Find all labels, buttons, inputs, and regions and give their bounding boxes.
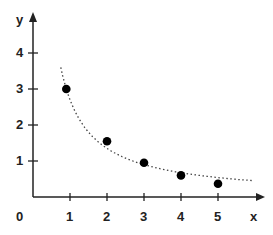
data-point — [62, 85, 71, 94]
chart-area: y x 0 12345 1234 — [0, 0, 273, 235]
axes — [28, 12, 265, 201]
data-point — [140, 159, 149, 168]
y-tick-label: 4 — [16, 45, 23, 60]
x-axis-label: x — [250, 209, 257, 224]
x-tick-label: 3 — [140, 209, 147, 224]
x-tick-label: 5 — [214, 209, 221, 224]
data-point — [177, 171, 186, 180]
origin-label: 0 — [16, 209, 23, 224]
x-tick-label: 4 — [177, 209, 184, 224]
fitted-curve — [61, 67, 253, 180]
plot-svg — [0, 0, 273, 235]
data-points — [62, 85, 222, 188]
y-tick-label: 3 — [16, 81, 23, 96]
y-tick-label: 1 — [16, 153, 23, 168]
x-tick-label: 1 — [66, 209, 73, 224]
x-tick-label: 2 — [103, 209, 110, 224]
y-tick-label: 2 — [16, 117, 23, 132]
data-point — [214, 179, 223, 188]
y-axis-label: y — [16, 12, 23, 27]
data-point — [103, 137, 112, 146]
